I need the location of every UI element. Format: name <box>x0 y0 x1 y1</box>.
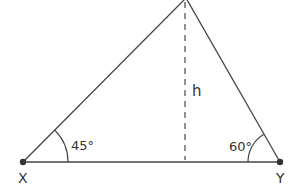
point-x <box>20 159 26 165</box>
side-x-apex <box>23 0 186 162</box>
height-label: h <box>192 82 202 100</box>
triangle-diagram: X Y 45° 60° h <box>0 0 303 196</box>
side-apex-y <box>186 0 280 162</box>
vertex-label-x: X <box>18 170 28 186</box>
point-y <box>277 159 283 165</box>
angle-label-y: 60° <box>229 139 252 154</box>
vertex-label-y: Y <box>275 170 285 186</box>
angle-arc-x <box>55 130 68 162</box>
angle-label-x: 45° <box>71 138 94 153</box>
